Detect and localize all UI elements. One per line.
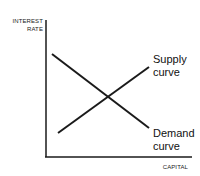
x-axis-label: CAPITAL [156,163,188,171]
supply-curve [58,67,149,133]
demand-curve [52,54,149,128]
supply-curve-label: Supply curve [153,53,187,79]
demand-curve-label: Demand curve [153,127,195,153]
y-axis-label: INTEREST RATE [2,17,43,33]
